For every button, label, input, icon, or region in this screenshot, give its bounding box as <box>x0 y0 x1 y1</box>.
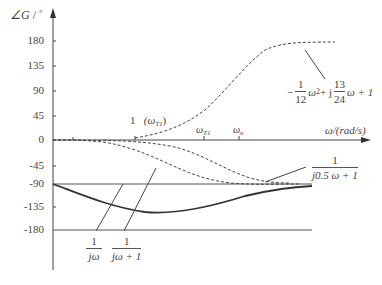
marker-omega-n-label: ωn <box>233 124 244 137</box>
quad-tail: ω + 1 <box>347 86 373 98</box>
marker-omega-t1-paren-sub: T1 <box>155 120 162 128</box>
y-tick-minus90: -90 <box>4 177 44 189</box>
quad-frac-2-num: 13 <box>334 78 345 90</box>
series-first-order-1 <box>53 140 300 184</box>
y-tick-90: 90 <box>4 84 44 96</box>
quad-frac-2: 13 24 <box>334 78 345 105</box>
marker-omega-t1-symbol: ω <box>196 124 203 135</box>
marker-omega-t1-sub: T1 <box>203 129 210 137</box>
y-label-symbol: ∠G <box>10 8 30 22</box>
marker-one-value: 1 <box>130 114 136 126</box>
quad-omega: ω <box>308 86 316 98</box>
quad-frac-2-den: 24 <box>334 93 345 105</box>
f3-bar <box>312 167 358 168</box>
quad-minus: − <box>287 86 293 98</box>
first-order-2-label: 1 j0.5 ω + 1 <box>312 154 358 181</box>
x-axis-arrow <box>361 137 371 143</box>
y-tick-minus135: -135 <box>4 200 44 212</box>
y-label-unit: ° <box>39 8 43 18</box>
marker-omega-t1-paren: (ω <box>144 114 155 126</box>
marker-omega-n-sub: n <box>240 129 244 137</box>
y-tick-180: 180 <box>4 34 44 46</box>
integrator-label: 1 jω <box>86 235 102 262</box>
f1-num: 1 <box>91 235 97 247</box>
marker-omega-n-symbol: ω <box>233 124 240 135</box>
marker-one-label: 1 (ωT1) <box>130 114 166 128</box>
quad-frac-1-num: 1 <box>298 78 304 90</box>
f1-den: jω <box>89 250 100 262</box>
f2-num: 1 <box>124 235 130 247</box>
phase-plot <box>0 0 382 285</box>
y-tick-135: 135 <box>4 59 44 71</box>
f3-den: j0.5 ω + 1 <box>312 169 358 181</box>
f2-den: jω + 1 <box>112 250 141 262</box>
quad-frac-2-bar <box>334 91 345 92</box>
quadratic-label: − 1 12 ω2 + j 13 24 ω + 1 <box>287 78 373 105</box>
quad-frac-1-den: 12 <box>295 93 306 105</box>
y-tick-0: 0 <box>4 133 44 145</box>
marker-omega-t1-label: ωT1 <box>196 124 210 137</box>
quad-frac-1-bar <box>295 91 306 92</box>
quad-frac-1: 1 12 <box>295 78 306 105</box>
series-first-order-2 <box>53 140 290 183</box>
y-tick-minus180: -180 <box>4 223 44 235</box>
y-axis-arrow <box>50 8 56 18</box>
f2-bar <box>112 248 141 249</box>
f3-num: 1 <box>332 154 338 166</box>
first-order-1-label: 1 jω + 1 <box>112 235 141 262</box>
f1-bar <box>86 248 102 249</box>
y-tick-45: 45 <box>4 109 44 121</box>
y-label-slash: / <box>33 8 36 22</box>
y-tick-minus45: -45 <box>4 159 44 171</box>
x-axis-label: ω/(rad/s) <box>325 124 366 136</box>
y-axis-label: ∠G / ° <box>10 8 43 23</box>
x-markers <box>73 136 239 140</box>
marker-omega-t1-close: ) <box>163 114 167 126</box>
series-overall <box>53 184 312 213</box>
quad-plus-j: + j <box>320 86 332 98</box>
